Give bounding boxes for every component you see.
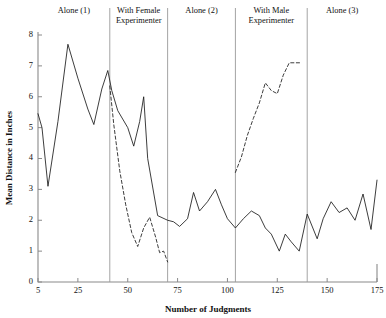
line-chart: Alone (1)With FemaleExperimenterAlone (2… (0, 0, 386, 318)
y-tick-label: 5 (29, 122, 33, 132)
x-tick-label: 75 (173, 285, 182, 295)
y-tick-label: 3 (29, 183, 33, 193)
x-axis-title: Number of Judgments (165, 304, 251, 314)
y-tick-label: 7 (29, 60, 33, 70)
x-tick-label: 5 (36, 285, 40, 295)
x-tick-label: 150 (321, 285, 334, 295)
chart-container: Alone (1)With FemaleExperimenterAlone (2… (0, 0, 386, 318)
panel-label: Alone (1) (58, 6, 91, 15)
x-tick-label: 25 (74, 285, 83, 295)
x-tick-label: 175 (371, 285, 384, 295)
y-tick-label: 6 (29, 91, 33, 101)
y-axis-title: Mean Distance in Inches (4, 110, 14, 205)
y-tick-label: 0 (29, 276, 33, 286)
panel-label: Experimenter (249, 16, 295, 25)
plot-background (0, 0, 386, 318)
panel-label: With Male (253, 6, 289, 15)
x-tick-label: 50 (123, 285, 132, 295)
y-tick-label: 1 (29, 245, 33, 255)
y-tick-label: 2 (29, 214, 33, 224)
panel-label: With Female (117, 6, 160, 15)
panel-label: Experimenter (116, 16, 162, 25)
panel-label: Alone (2) (185, 6, 218, 15)
y-tick-label: 8 (29, 29, 33, 39)
x-tick-label: 100 (221, 285, 234, 295)
panel-label: Alone (3) (326, 6, 359, 15)
x-tick-label: 125 (271, 285, 284, 295)
